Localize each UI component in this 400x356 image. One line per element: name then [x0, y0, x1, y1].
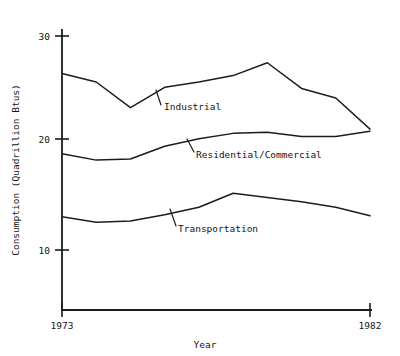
x-tick-label-1973: 1973 — [51, 320, 74, 331]
y-axis-title: Consumption (Quadrillion Btus) — [10, 84, 21, 256]
x-tick-label-1982: 1982 — [359, 320, 382, 331]
series-label-industrial: Industrial — [164, 101, 221, 112]
y-tick-label-30: 30 — [39, 31, 51, 42]
x-axis-title: Year — [194, 339, 217, 350]
series-line-industrial — [62, 63, 370, 129]
y-tick-label-20: 20 — [39, 134, 51, 145]
line-chart-figure: 30 20 10 1973 1982 Consumption (Quadrill… — [0, 0, 400, 356]
y-tick-label-10: 10 — [39, 245, 51, 256]
industrial-leader-line — [156, 90, 161, 105]
series-label-residential-commercial: Residential/Commercial — [196, 149, 322, 160]
series-label-transportation: Transportation — [178, 223, 258, 234]
chart-canvas: 30 20 10 1973 1982 Consumption (Quadrill… — [0, 0, 400, 356]
series-line-transportation — [62, 193, 370, 222]
transportation-leader-line — [170, 209, 176, 226]
